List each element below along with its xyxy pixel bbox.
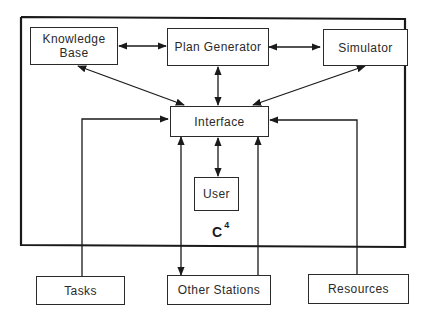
system-label-text: C xyxy=(212,224,222,240)
node-plan-generator: Plan Generator xyxy=(167,28,269,66)
node-simulator: Simulator xyxy=(323,29,408,66)
node-knowledge-base-line2: Base xyxy=(60,46,89,60)
node-interface: Interface xyxy=(170,106,269,137)
node-user: User xyxy=(194,177,239,211)
node-simulator-label: Simulator xyxy=(338,41,392,55)
system-label: C4 xyxy=(212,223,229,240)
node-knowledge-base-line1: Knowledge xyxy=(43,32,106,46)
node-other-stations-label: Other Stations xyxy=(178,283,260,297)
node-tasks: Tasks xyxy=(36,276,125,305)
node-other-stations: Other Stations xyxy=(167,275,271,305)
node-user-label: User xyxy=(203,187,230,201)
node-resources: Resources xyxy=(308,274,409,304)
node-interface-label: Interface xyxy=(194,115,244,129)
node-knowledge-base: Knowledge Base xyxy=(30,27,118,65)
node-tasks-label: Tasks xyxy=(64,284,97,298)
node-plan-generator-label: Plan Generator xyxy=(175,40,262,54)
node-resources-label: Resources xyxy=(328,282,389,296)
system-label-superscript: 4 xyxy=(224,220,229,230)
